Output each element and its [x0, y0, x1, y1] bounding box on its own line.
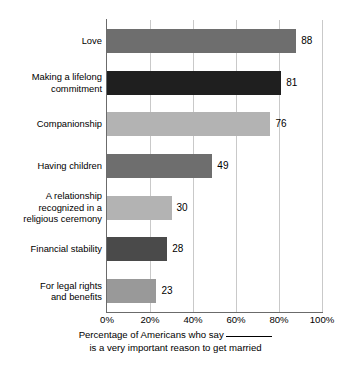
- bar-value-religious-ceremony: 30: [177, 203, 188, 213]
- xtick-20: 20%: [140, 314, 159, 325]
- gridline-60: [236, 20, 237, 312]
- bar-financial-stability: [107, 237, 167, 261]
- bar-value-financial-stability: 28: [172, 244, 183, 254]
- x-axis-title: Percentage of Americans who say is a ver…: [0, 329, 351, 354]
- bar-value-legal-rights: 23: [161, 286, 172, 296]
- bar-love: [107, 29, 296, 53]
- x-axis-title-line2: is a very important reason to get marrie…: [0, 342, 351, 355]
- x-axis-title-line1: Percentage of Americans who say: [0, 329, 351, 342]
- category-label-having-children: Having children: [0, 160, 102, 172]
- fill-in-blank: [226, 336, 272, 337]
- category-label-legal-rights: For legal rights and benefits: [0, 280, 102, 303]
- x-axis-line: [106, 312, 323, 313]
- xtick-60: 60%: [226, 314, 245, 325]
- plot-area: 88 81 76 49 30 28 23: [107, 20, 322, 312]
- bar-value-love: 88: [301, 36, 312, 46]
- xtick-0: 0%: [100, 314, 114, 325]
- category-label-love: Love: [0, 35, 102, 47]
- category-label-companionship: Companionship: [0, 118, 102, 130]
- bar-legal-rights: [107, 279, 156, 303]
- x-axis-title-line1-text: Percentage of Americans who say: [79, 329, 224, 340]
- bar-companionship: [107, 112, 270, 136]
- bar-value-commitment: 81: [286, 78, 297, 88]
- bar-chart: Love Making a lifelong commitment Compan…: [0, 0, 351, 373]
- bar-value-companionship: 76: [275, 119, 286, 129]
- bar-religious-ceremony: [107, 196, 172, 220]
- category-label-religious-ceremony: A relationship recognized in a religious…: [0, 190, 102, 225]
- gridline-100: [322, 20, 323, 312]
- xtick-80: 80%: [269, 314, 288, 325]
- category-label-commitment: Making a lifelong commitment: [0, 71, 102, 94]
- bar-having-children: [107, 154, 212, 178]
- bar-commitment: [107, 71, 281, 95]
- y-axis-line: [106, 19, 107, 313]
- xtick-40: 40%: [183, 314, 202, 325]
- bar-value-having-children: 49: [217, 161, 228, 171]
- xtick-100: 100%: [310, 314, 335, 325]
- gridline-80: [279, 20, 280, 312]
- category-axis-labels: Love Making a lifelong commitment Compan…: [0, 20, 102, 312]
- category-label-financial-stability: Financial stability: [0, 243, 102, 255]
